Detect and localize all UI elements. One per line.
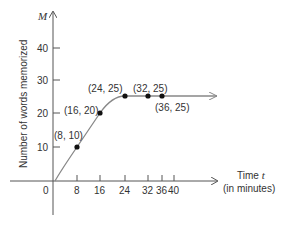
- data-point: [145, 93, 150, 98]
- x-tick-label: 8: [74, 185, 80, 196]
- point-label: (32, 25): [133, 83, 167, 94]
- x-tick-label: 36: [156, 185, 168, 196]
- y-variable-label: M: [37, 10, 48, 22]
- x-axis-subtitle: (in minutes): [223, 183, 275, 194]
- chart-canvas: M 10 20 30 40 0 8 16 24 32 36 40 Number …: [0, 0, 292, 225]
- x-tick-label: 24: [119, 185, 131, 196]
- y-tick-label: 40: [37, 43, 49, 54]
- data-point: [74, 144, 79, 149]
- y-tick-label: 10: [37, 142, 49, 153]
- x-axis-title: Time t: [237, 169, 266, 181]
- x-tick-label: 16: [94, 185, 106, 196]
- data-points: [74, 93, 164, 149]
- x-tick-label: 0: [43, 185, 49, 196]
- data-point: [122, 93, 127, 98]
- y-tick-label: 20: [37, 108, 49, 119]
- x-ticks: 0 8 16 24 32 36 40: [43, 175, 180, 196]
- point-label: (8, 10): [54, 130, 83, 141]
- x-tick-label: 40: [168, 185, 180, 196]
- y-axis-title: Number of words memorized: [18, 40, 29, 168]
- point-label: (24, 25): [88, 83, 122, 94]
- point-label: (36, 25): [155, 102, 189, 113]
- data-point: [159, 93, 164, 98]
- point-label: (16, 20): [64, 105, 98, 116]
- y-tick-label: 30: [37, 75, 49, 86]
- x-tick-label: 32: [142, 185, 154, 196]
